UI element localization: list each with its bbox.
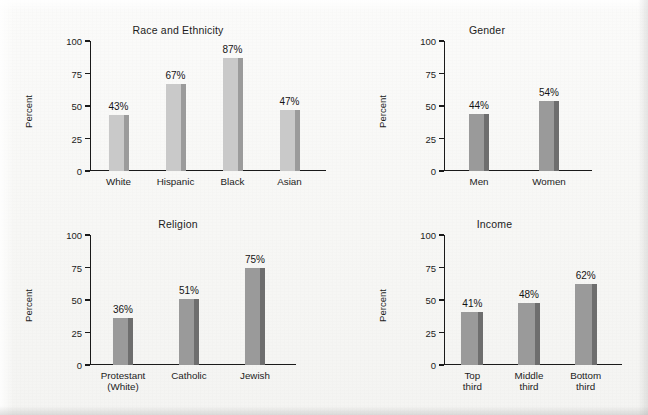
chart-title: Gender: [372, 24, 602, 36]
y-axis-tick: [85, 105, 90, 106]
y-axis-tick: [85, 234, 90, 235]
bar-shadow: [181, 84, 186, 171]
y-axis-tick-label: 100: [66, 230, 82, 241]
plot-area: 025507510043%White67%Hispanic87%Black47%…: [90, 41, 318, 171]
y-axis-tick: [85, 170, 90, 171]
bar-value-label: 75%: [245, 254, 265, 265]
chart-title: Religion: [28, 218, 328, 230]
figure-page: Race and Ethnicity Percent 025507510043%…: [0, 0, 648, 415]
y-axis-tick: [439, 73, 444, 74]
y-axis-tick: [439, 299, 444, 300]
x-axis-category-label: Middle third: [515, 370, 544, 392]
bar: 44%: [469, 114, 489, 171]
y-axis-tick: [439, 332, 444, 333]
y-axis-tick: [439, 105, 444, 106]
plot-area: 025507510041%Top third48%Middle third62%…: [444, 235, 614, 365]
bar-shadow: [295, 110, 300, 171]
y-axis-tick-label: 25: [425, 327, 436, 338]
y-axis-tick-label: 50: [425, 101, 436, 112]
y-axis-tick-label: 75: [425, 68, 436, 79]
bar-value-label: 47%: [279, 96, 299, 107]
x-axis-category-label: Women: [532, 176, 566, 187]
y-axis-tick: [439, 138, 444, 139]
bar-shadow: [535, 303, 540, 365]
bar-value-label: 87%: [222, 44, 242, 55]
y-axis-tick-label: 100: [66, 36, 82, 47]
bar: 43%: [109, 115, 129, 171]
y-axis-tick-label: 75: [71, 68, 82, 79]
y-axis-label: Percent: [23, 289, 34, 322]
plot-area: 025507510044%Men54%Women: [444, 41, 584, 171]
x-axis-category-label: Asian: [277, 176, 302, 187]
bar-shadow: [478, 312, 483, 365]
chart-panel-race-and-ethnicity: Race and Ethnicity Percent 025507510043%…: [28, 24, 328, 194]
chart-panel-religion: Religion Percent 025507510036%Protestant…: [28, 218, 328, 393]
bar-value-label: 67%: [165, 70, 185, 81]
x-axis-line: [444, 170, 592, 171]
bar: 48%: [518, 303, 540, 365]
y-axis-tick-label: 100: [420, 36, 436, 47]
bar: 47%: [280, 110, 300, 171]
bar-shadow: [592, 284, 597, 365]
y-axis-tick-label: 25: [425, 133, 436, 144]
chart-panel-income: Income Percent 025507510041%Top third48%…: [372, 218, 617, 393]
x-axis-category-label: Hispanic: [157, 176, 195, 187]
y-axis-label: Percent: [377, 95, 388, 128]
y-axis-line: [90, 235, 91, 365]
y-axis-tick: [85, 332, 90, 333]
y-axis-tick-label: 0: [431, 360, 436, 371]
x-axis-category-label: Catholic: [171, 370, 206, 381]
x-axis-category-label: Bottom third: [570, 370, 601, 392]
bar-shadow: [554, 101, 559, 171]
y-axis-label: Percent: [23, 95, 34, 128]
y-axis-tick-label: 0: [77, 360, 82, 371]
y-axis-tick: [85, 40, 90, 41]
bar: 41%: [461, 312, 483, 365]
bar-shadow: [194, 299, 199, 365]
bar-value-label: 48%: [519, 289, 539, 300]
plot-area: 025507510036%Protestant (White)51%Cathol…: [90, 235, 288, 365]
bar: 67%: [166, 84, 186, 171]
y-axis-tick-label: 75: [425, 262, 436, 273]
y-axis-tick-label: 100: [420, 230, 436, 241]
bar: 36%: [113, 318, 133, 365]
bar-shadow: [238, 58, 243, 171]
bar-value-label: 36%: [113, 304, 133, 315]
chart-title: Income: [372, 218, 617, 230]
x-axis-category-label: Jewish: [240, 370, 270, 381]
y-axis-tick-label: 75: [71, 262, 82, 273]
y-axis-tick: [439, 234, 444, 235]
x-axis-category-label: Protestant (White): [101, 370, 146, 392]
x-axis-category-label: Top third: [463, 370, 482, 392]
bar-value-label: 51%: [179, 285, 199, 296]
y-axis-tick: [85, 73, 90, 74]
bar-shadow: [484, 114, 489, 171]
chart-panel-gender: Gender Percent 025507510044%Men54%Women: [372, 24, 602, 194]
y-axis-tick-label: 50: [71, 101, 82, 112]
bar-value-label: 62%: [576, 270, 596, 281]
y-axis-tick: [85, 267, 90, 268]
bar: 87%: [223, 58, 243, 171]
y-axis-tick-label: 50: [71, 295, 82, 306]
y-axis-tick: [85, 299, 90, 300]
y-axis-tick: [439, 267, 444, 268]
bar: 54%: [539, 101, 559, 171]
y-axis-tick-label: 25: [71, 327, 82, 338]
bar-value-label: 54%: [539, 87, 559, 98]
bar-value-label: 41%: [462, 298, 482, 309]
bar-shadow: [260, 268, 265, 366]
y-axis-tick: [85, 138, 90, 139]
y-axis-line: [444, 41, 445, 171]
x-axis-category-label: Men: [469, 176, 488, 187]
bar: 62%: [575, 284, 597, 365]
x-axis-category-label: White: [106, 176, 131, 187]
y-axis-tick: [439, 40, 444, 41]
y-axis-tick-label: 0: [77, 166, 82, 177]
bar: 51%: [179, 299, 199, 365]
bar-value-label: 44%: [469, 100, 489, 111]
chart-title: Race and Ethnicity: [28, 24, 328, 36]
y-axis-tick: [439, 170, 444, 171]
x-axis-category-label: Black: [221, 176, 245, 187]
y-axis-line: [444, 235, 445, 365]
y-axis-label: Percent: [377, 289, 388, 322]
